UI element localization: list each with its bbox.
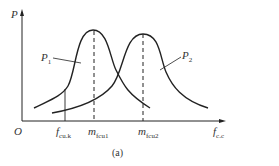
curve-label-p2-sub: 2 (189, 56, 193, 64)
x-mark-fcuk-sub: cu.k (59, 132, 71, 140)
x-mark-mfcu1: mfcu1 (88, 126, 108, 140)
y-axis-arrow-icon (20, 9, 24, 16)
y-axis-label: P (11, 9, 18, 20)
curve-label-p2-main: P (182, 49, 189, 61)
origin-label: O (14, 126, 22, 137)
curve-p2 (52, 34, 208, 113)
x-mark-mfcu1-sub: fcu1 (96, 132, 108, 140)
p1-leader (53, 58, 81, 63)
x-mark-mfcu1-main: m (88, 125, 96, 137)
x-mark-mfcu2-main: m (138, 125, 146, 137)
x-mark-mfcu2-sub: fcu2 (146, 132, 158, 140)
x-mark-fcuk: fcu.k (56, 126, 71, 140)
x-axis-label-sub: c.c (216, 132, 224, 140)
curve-label-p1: P1 (41, 52, 51, 66)
x-axis-label: fc.c (213, 126, 224, 140)
curve-label-p1-main: P (41, 51, 48, 63)
curve-label-p2: P2 (182, 50, 192, 64)
curve-p1 (34, 30, 150, 108)
x-axis-arrow-icon (219, 119, 226, 123)
diagram-canvas (0, 0, 279, 166)
curve-label-p1-sub: 1 (48, 58, 52, 66)
x-mark-mfcu2: mfcu2 (138, 126, 158, 140)
figure-caption: (a) (112, 148, 123, 158)
